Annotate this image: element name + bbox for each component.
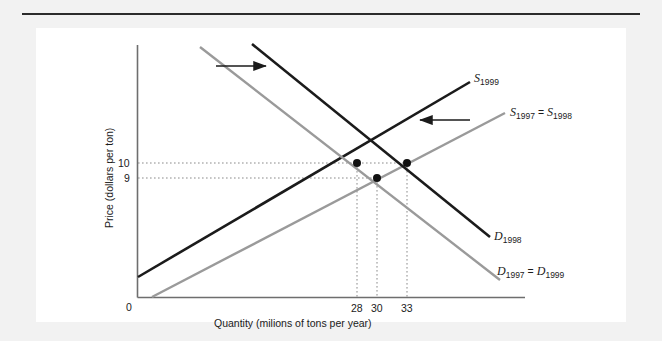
demand-curve-1997-1999 (200, 47, 500, 280)
supply-demand-chart (0, 0, 662, 341)
y-axis-title: Price (dollars per ton) (104, 128, 115, 228)
curve-label-s1997-s1998: S1997 = S1998 (510, 106, 572, 118)
figure-page: 10 9 28 30 33 0 Quantity (milions of ton… (0, 0, 662, 341)
x-tick-label-33: 33 (401, 303, 413, 314)
curve-label-d1998: D1998 (494, 230, 522, 242)
curve-label-d1997-d1999: D1997 = D1999 (497, 265, 564, 277)
x-axis-title: Quantity (milions of tons per year) (214, 318, 372, 329)
y-tick-label-9: 9 (124, 173, 130, 184)
x-tick-label-28: 28 (351, 303, 363, 314)
equilibrium-point-1998 (373, 174, 381, 182)
x-tick-label-30: 30 (371, 303, 383, 314)
y-tick-label-10: 10 (118, 158, 130, 169)
equilibrium-point-1999 (403, 159, 411, 167)
curve-label-s1999: S1999 (474, 72, 499, 84)
equilibrium-point-1997 (353, 159, 361, 167)
origin-label: 0 (126, 302, 132, 313)
